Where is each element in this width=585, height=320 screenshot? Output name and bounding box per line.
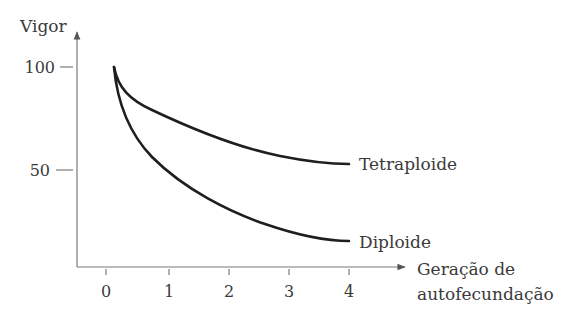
x-tick-label-1: 1 xyxy=(164,282,174,301)
chart: Vigor 100 50 0 1 2 3 4 Geração de autofe… xyxy=(0,0,585,320)
series-tetraploide-line xyxy=(114,67,349,164)
x-tick-label-0: 0 xyxy=(101,282,111,301)
y-tick-label-100: 100 xyxy=(24,58,55,77)
x-axis-label-line2: autofecundação xyxy=(417,284,554,304)
series-label-tetraploide: Tetraploide xyxy=(359,154,457,174)
x-tick-label-3: 3 xyxy=(284,282,294,301)
x-tick-label-4: 4 xyxy=(344,282,354,301)
y-axis-label: Vigor xyxy=(19,16,68,36)
x-ticks xyxy=(106,269,349,275)
x-tick-label-2: 2 xyxy=(224,282,234,301)
x-axis-label-line1: Geração de xyxy=(417,259,515,279)
series-diploide-line xyxy=(114,67,349,241)
y-tick-label-50: 50 xyxy=(30,161,50,180)
series-label-diploide: Diploide xyxy=(359,232,431,252)
